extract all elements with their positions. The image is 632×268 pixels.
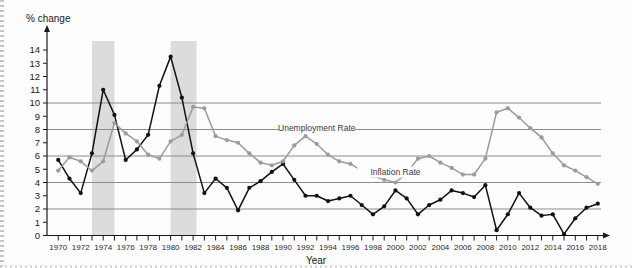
x-tick-label-2014: 2014 [544,243,562,252]
x-tick-label-1992: 1992 [297,243,315,252]
x-axis-group: 1970197219741976197819801982198419861988… [47,233,610,252]
data-point [506,212,510,216]
data-point [596,202,600,206]
x-tick-label-1996: 1996 [342,243,360,252]
data-point [124,131,128,135]
y-tick-label-3: 3 [35,190,40,201]
data-point [191,105,195,109]
data-point [315,194,319,198]
y-tick-label-14: 14 [29,44,40,55]
data-point [382,204,386,208]
x-tick-label-2016: 2016 [566,243,584,252]
data-point [326,153,330,157]
data-point [450,166,454,170]
data-point [315,142,319,146]
data-point [528,126,532,130]
data-point [292,143,296,147]
data-point [584,206,588,210]
data-point [472,195,476,199]
data-point [438,198,442,202]
data-point [281,159,285,163]
data-point [427,203,431,207]
data-point [236,141,240,145]
x-tick-label-1994: 1994 [319,243,337,252]
data-point [551,212,555,216]
data-point [450,188,454,192]
y-axis-title: % change [26,13,71,24]
data-point [517,115,521,119]
y-tick-label-5: 5 [35,164,40,175]
data-point [157,157,161,161]
chart-figure: 01234567891011121314 1970197219741976197… [0,0,632,268]
data-point [101,159,105,163]
data-point [101,88,105,92]
x-axis-title: Year [306,255,327,266]
data-point [371,212,375,216]
data-point [539,135,543,139]
data-point [225,138,229,142]
data-point [157,84,161,88]
series-line [58,57,598,235]
x-tick-label-1986: 1986 [229,243,247,252]
x-tick-label-1978: 1978 [139,243,157,252]
data-point [247,151,251,155]
data-point [214,134,218,138]
data-point [573,216,577,220]
data-point [427,154,431,158]
data-point [180,96,184,100]
series-label-inflation-rate: Inflation Rate [370,167,420,177]
data-point [495,110,499,114]
x-tick-label-2018: 2018 [589,243,607,252]
data-point [56,168,60,172]
data-point [270,170,274,174]
data-point [483,157,487,161]
x-tick-label-1976: 1976 [117,243,135,252]
y-tick-label-6: 6 [35,150,40,161]
data-point [584,175,588,179]
data-point [539,214,543,218]
data-point [90,168,94,172]
data-point [517,191,521,195]
data-point [112,113,116,117]
x-tick-label-1984: 1984 [207,243,225,252]
data-point [124,158,128,162]
data-point [528,206,532,210]
y-tick-label-8: 8 [35,124,40,135]
y-tick-label-4: 4 [35,177,40,188]
data-point [180,133,184,137]
data-point [348,194,352,198]
data-point [393,188,397,192]
data-point [56,158,60,162]
y-tick-label-13: 13 [29,58,40,69]
data-point [348,162,352,166]
data-point [382,178,386,182]
data-point [495,228,499,232]
data-point [506,106,510,110]
series-label-unemployment-rate: Unemployment Rate [278,123,356,133]
data-point [258,161,262,165]
data-point [225,186,229,190]
data-point [247,186,251,190]
y-tick-label-1: 1 [35,217,40,228]
y-tick-label-9: 9 [35,111,40,122]
data-point [146,153,150,157]
data-point [112,121,116,125]
x-tick-label-1990: 1990 [274,243,292,252]
y-axis-arrow-icon [44,25,50,32]
data-point [214,176,218,180]
data-point [337,196,341,200]
y-tick-label-12: 12 [29,71,40,82]
data-point [202,106,206,110]
data-point [270,163,274,167]
y-tick-label-7: 7 [35,137,40,148]
data-point [79,159,83,163]
data-point [393,180,397,184]
data-point [169,139,173,143]
data-point [461,191,465,195]
x-tick-label-1972: 1972 [72,243,90,252]
data-point [405,196,409,200]
recession-bands-group [92,41,197,236]
data-point [416,212,420,216]
y-tick-label-2: 2 [35,203,40,214]
x-tick-label-1980: 1980 [162,243,180,252]
